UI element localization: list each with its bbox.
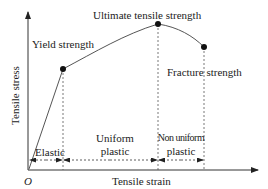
ultimate-point — [155, 21, 161, 27]
x-axis-label: Tensile strain — [112, 176, 171, 187]
stress-strain-diagram — [0, 0, 268, 189]
uniform-plastic-label-2: plastic — [90, 146, 140, 157]
uniform-plastic-label-1: Uniform — [90, 133, 140, 144]
y-axis-label: Tensile stress — [10, 61, 21, 131]
yield-strength-label: Yield strength — [32, 39, 94, 50]
nonuniform-plastic-label-2: plastic — [156, 146, 206, 157]
fracture-strength-label: Fracture strength — [167, 67, 242, 78]
origin-label: O — [24, 176, 32, 187]
elastic-label: Elastic — [35, 147, 65, 158]
ultimate-strength-label: Ultimate tensile strength — [93, 10, 201, 21]
fracture-point — [201, 44, 207, 50]
nonuniform-plastic-label-1: Non uniform — [156, 133, 206, 143]
yield-point — [60, 66, 66, 72]
